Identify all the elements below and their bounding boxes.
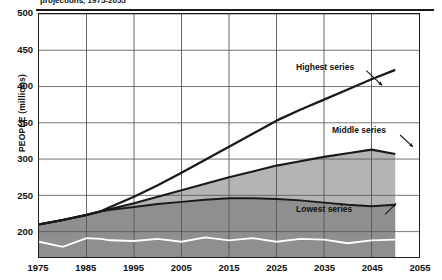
x-tick-1985: 1985 [66,262,106,273]
x-tick-2015: 2015 [209,262,249,273]
y-tick-250: 250 [0,190,33,201]
x-tick-1975: 1975 [18,262,58,273]
y-tick-450: 450 [0,44,33,55]
y-tick-500: 500 [0,7,33,18]
chart-page: projections, 1975-2055 PEOPLE (millions)… [0,0,442,280]
header-rule [36,9,434,11]
x-tick-1995: 1995 [114,262,154,273]
chart-svg [39,14,419,257]
y-tick-350: 350 [0,117,33,128]
annotation-lowest: Lowest series [296,204,352,214]
plot-area [38,13,420,258]
x-tick-2025: 2025 [257,262,297,273]
x-tick-2045: 2045 [352,262,392,273]
y-tick-200: 200 [0,226,33,237]
annotation-highest: Highest series [296,62,354,72]
y-tick-300: 300 [0,153,33,164]
x-tick-2055: 2055 [400,262,440,273]
annotation-middle: Middle series [332,125,386,135]
x-tick-2035: 2035 [305,262,345,273]
y-axis-label: PEOPLE (millions) [17,38,27,188]
partial-title: projections, 1975-2055 [40,0,126,6]
x-tick-2005: 2005 [161,262,201,273]
y-tick-400: 400 [0,80,33,91]
